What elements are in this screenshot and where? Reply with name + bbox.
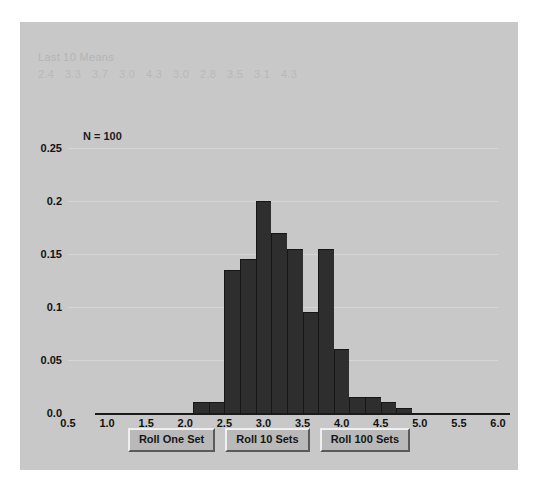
y-axis-tick-label: 0.0 <box>20 407 62 419</box>
y-axis-tick-label: 0.25 <box>20 142 62 154</box>
histogram-bar <box>349 397 365 413</box>
histogram-bar <box>365 397 381 413</box>
gridline <box>68 148 498 149</box>
histogram-plot: 0.00.050.10.150.20.25 0.51.01.52.02.53.0… <box>20 22 518 470</box>
y-axis-tick-label: 0.2 <box>20 195 62 207</box>
roll-100-sets-button[interactable]: Roll 100 Sets <box>320 428 410 452</box>
screenshot-root: Last 10 Means 2.43.33.73.04.33.02.83.53.… <box>0 0 544 481</box>
histogram-bar <box>271 233 287 413</box>
x-axis-line <box>95 413 509 415</box>
histogram-bar <box>303 312 319 413</box>
histogram-bar <box>224 270 240 413</box>
histogram-applet-panel: Last 10 Means 2.43.33.73.04.33.02.83.53.… <box>20 22 518 470</box>
histogram-bar <box>287 249 303 413</box>
y-axis-tick-label: 0.15 <box>20 248 62 260</box>
gridline <box>68 201 498 202</box>
histogram-bar <box>193 402 209 413</box>
y-axis-tick-label: 0.05 <box>20 354 62 366</box>
y-axis-tick-label: 0.1 <box>20 301 62 313</box>
histogram-bar <box>381 402 397 413</box>
histogram-bar <box>240 259 256 413</box>
histogram-bar <box>318 249 334 413</box>
histogram-bar <box>334 349 350 413</box>
roll-10-sets-button[interactable]: Roll 10 Sets <box>225 428 309 452</box>
histogram-bar <box>209 402 225 413</box>
controls-button-bar: Roll One Set Roll 10 Sets Roll 100 Sets <box>20 428 518 452</box>
histogram-bar <box>256 201 272 413</box>
roll-one-set-button[interactable]: Roll One Set <box>128 428 215 452</box>
